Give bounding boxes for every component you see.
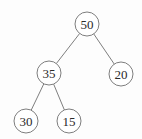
node-label: 20: [115, 67, 128, 82]
edge-35-15: [54, 84, 65, 110]
tree-node-20: 20: [109, 62, 133, 86]
node-label: 50: [81, 17, 94, 32]
edge-50-35: [56, 33, 79, 63]
binary-tree-diagram: 5035203015: [0, 0, 142, 139]
tree-svg: 5035203015: [0, 0, 142, 139]
node-label: 30: [20, 114, 33, 129]
tree-node-30: 30: [14, 109, 38, 133]
node-label: 15: [63, 114, 76, 129]
tree-node-35: 35: [37, 61, 61, 85]
nodes-group: 5035203015: [14, 12, 133, 133]
edge-35-30: [31, 84, 44, 110]
tree-node-50: 50: [75, 12, 99, 36]
tree-node-15: 15: [57, 109, 81, 133]
node-label: 35: [43, 66, 56, 81]
edge-50-20: [94, 34, 115, 64]
